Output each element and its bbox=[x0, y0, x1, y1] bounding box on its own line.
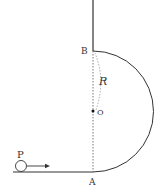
label-a: A bbox=[88, 177, 96, 187]
arrow-head-icon bbox=[45, 164, 50, 168]
label-o: O bbox=[97, 108, 104, 117]
ball-p bbox=[16, 161, 27, 172]
label-r: R bbox=[98, 75, 107, 88]
label-p: P bbox=[17, 149, 24, 160]
label-b: B bbox=[81, 46, 88, 56]
center-point-o bbox=[92, 110, 95, 113]
diagram-canvas: P A B O R bbox=[0, 0, 161, 193]
